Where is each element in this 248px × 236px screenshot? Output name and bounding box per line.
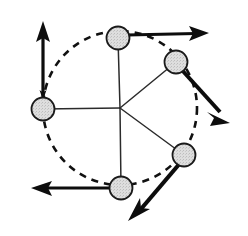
node-left[interactable] [32,98,55,121]
diagram-canvas [0,0,248,236]
node-bottom[interactable] [110,177,133,200]
node-upper-right[interactable] [165,51,188,74]
vector-top-right-shaft [127,34,196,36]
circular-motion-diagram [0,0,248,236]
node-top[interactable] [107,27,130,50]
node-lower-right[interactable] [173,144,196,167]
